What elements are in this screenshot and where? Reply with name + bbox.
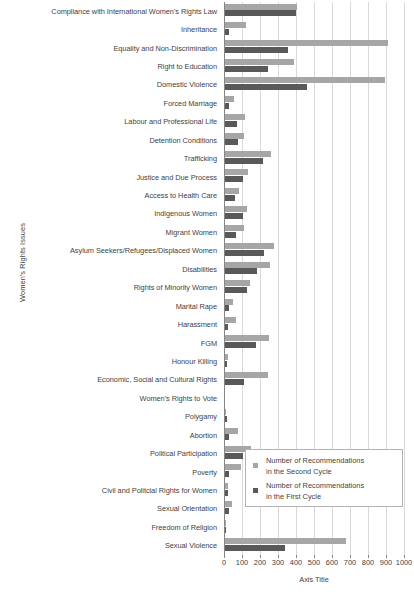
bar-second-cycle: [224, 317, 236, 323]
legend-swatch: [253, 488, 258, 493]
chart-legend: Number of Recommendationsin the Second C…: [245, 449, 403, 507]
bar-first-cycle: [224, 158, 263, 164]
bar-group: [224, 205, 404, 223]
bar-second-cycle: [224, 243, 274, 249]
x-axis-tick-label: 300: [272, 558, 284, 567]
legend-entry: Number of Recommendationsin the First Cy…: [253, 480, 399, 504]
bar-group: [224, 149, 404, 167]
bar-second-cycle: [224, 114, 245, 120]
bar-group: [224, 94, 404, 112]
category-label: Right to Education: [17, 62, 217, 71]
bar-second-cycle: [224, 151, 271, 157]
category-label: Economic, Social and Cultural Rights: [17, 375, 217, 384]
bar-first-cycle: [224, 84, 307, 90]
bar-group: [224, 2, 404, 20]
bar-second-cycle: [224, 188, 239, 194]
legend-swatch: [253, 463, 258, 468]
bar-group: [224, 408, 404, 426]
bar-second-cycle: [224, 428, 238, 434]
bar-first-cycle: [224, 176, 243, 182]
bar-second-cycle: [224, 262, 270, 268]
bar-second-cycle: [224, 77, 385, 83]
y-axis-line: [224, 2, 225, 555]
x-axis-tick-label: 100: [236, 558, 248, 567]
category-label: Honour Killing: [17, 357, 217, 366]
x-axis-tick-label: 400: [290, 558, 302, 567]
bar-first-cycle: [224, 250, 264, 256]
category-label: Justice and Due Process: [17, 173, 217, 182]
bar-first-cycle: [224, 213, 243, 219]
category-label: Sexual Orientation: [17, 504, 217, 513]
bar-group: [224, 260, 404, 278]
category-label: Detention Conditions: [17, 136, 217, 145]
category-label: Women's Rights to Vote: [17, 394, 217, 403]
x-axis-tick-label: 200: [254, 558, 266, 567]
bar-group: [224, 352, 404, 370]
bar-first-cycle: [224, 379, 244, 385]
bar-first-cycle: [224, 195, 235, 201]
legend-label: Number of Recommendationsin the First Cy…: [266, 480, 400, 502]
category-label-list: Compliance with International Women's Ri…: [18, 2, 220, 555]
bar-group: [224, 168, 404, 186]
bar-second-cycle: [224, 169, 248, 175]
bar-group: [224, 131, 404, 149]
x-axis-tick-label: 500: [308, 558, 320, 567]
x-axis-tick-label: 900: [380, 558, 392, 567]
bar-group: [224, 57, 404, 75]
category-label: Trafficking: [17, 154, 217, 163]
bar-second-cycle: [224, 59, 294, 65]
bar-group: [224, 223, 404, 241]
bar-group: [224, 39, 404, 57]
category-label: Migrant Women: [17, 228, 217, 237]
category-label: Disabilities: [17, 265, 217, 274]
category-label: Sexual Violence: [17, 541, 217, 550]
category-label: Harassment: [17, 320, 217, 329]
bar-first-cycle: [224, 139, 238, 145]
bar-second-cycle: [224, 206, 247, 212]
category-label: Indigenous Women: [17, 209, 217, 218]
bar-first-cycle: [224, 287, 247, 293]
legend-entry: Number of Recommendationsin the Second C…: [253, 455, 399, 479]
bar-first-cycle: [224, 66, 268, 72]
bar-first-cycle: [224, 121, 237, 127]
bar-first-cycle: [224, 10, 296, 16]
bar-second-cycle: [224, 280, 250, 286]
bar-first-cycle: [224, 232, 236, 238]
x-axis-tick-label: 1000: [396, 558, 412, 567]
bar-second-cycle: [224, 40, 388, 46]
bar-group: [224, 371, 404, 389]
bar-first-cycle: [224, 268, 257, 274]
bar-second-cycle: [224, 22, 246, 28]
bar-second-cycle: [224, 133, 244, 139]
bar-group: [224, 518, 404, 536]
category-label: Civil and Politcial Rights for Women: [17, 486, 217, 495]
bar-second-cycle: [224, 538, 346, 544]
category-label: Labour and Professional Life: [17, 117, 217, 126]
category-label: Forced Marriage: [17, 99, 217, 108]
bar-second-cycle: [224, 464, 241, 470]
category-label: Asylum Seekers/Refugees/Displaced Women: [17, 246, 217, 255]
legend-label-line: in the Second Cycle: [266, 466, 400, 477]
category-label: Abortion: [17, 431, 217, 440]
bar-group: [224, 20, 404, 38]
x-axis-tick-label: 0: [222, 558, 226, 567]
bar-group: [224, 279, 404, 297]
gridline: [404, 2, 405, 555]
bar-second-cycle: [224, 335, 269, 341]
category-label: Inheritance: [17, 25, 217, 34]
bar-second-cycle: [224, 96, 234, 102]
bar-group: [224, 186, 404, 204]
bar-group: [224, 537, 404, 555]
bar-second-cycle: [224, 299, 233, 305]
category-label: Compliance with International Women's Ri…: [17, 7, 217, 16]
category-label: Rights of Minority Women: [17, 283, 217, 292]
x-axis-tick-label: 700: [344, 558, 356, 567]
bar-group: [224, 113, 404, 131]
category-label: Freedom of Religion: [17, 523, 217, 532]
bar-second-cycle: [224, 4, 297, 10]
legend-label-line: in the First Cycle: [266, 491, 400, 502]
bar-second-cycle: [224, 501, 232, 507]
legend-label-line: Number of Recommendations: [266, 455, 400, 466]
x-axis-tick-labels: 01002003004005006007008009001000: [224, 558, 414, 570]
